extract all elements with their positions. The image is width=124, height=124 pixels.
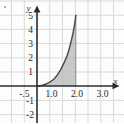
scan-speck <box>4 6 6 8</box>
y-tick-label-3: 3 <box>28 39 33 49</box>
x-tick-label-3: 3.0 <box>97 89 109 99</box>
y-tick-label-2: 2 <box>28 53 33 63</box>
y-tick-label-1: 1 <box>28 67 33 77</box>
y-tick-label-5: 5 <box>28 11 33 21</box>
chart-figure: y x 5 4 3 2 1 -1 -2 -.5 1.0 2.0 3.0 <box>0 0 124 123</box>
y-axis <box>34 6 41 124</box>
x-axis-label: x <box>113 76 118 86</box>
chart-svg: y x 5 4 3 2 1 -1 -2 -.5 1.0 2.0 3.0 <box>0 0 124 123</box>
y-tick-label-neg2: -2 <box>26 110 34 120</box>
x-tick-label-1: 1.0 <box>46 89 58 99</box>
x-tick-label-2: 2.0 <box>71 89 83 99</box>
x-tick-label-neg-half: -.5 <box>19 89 30 99</box>
y-tick-label-4: 4 <box>28 25 33 35</box>
